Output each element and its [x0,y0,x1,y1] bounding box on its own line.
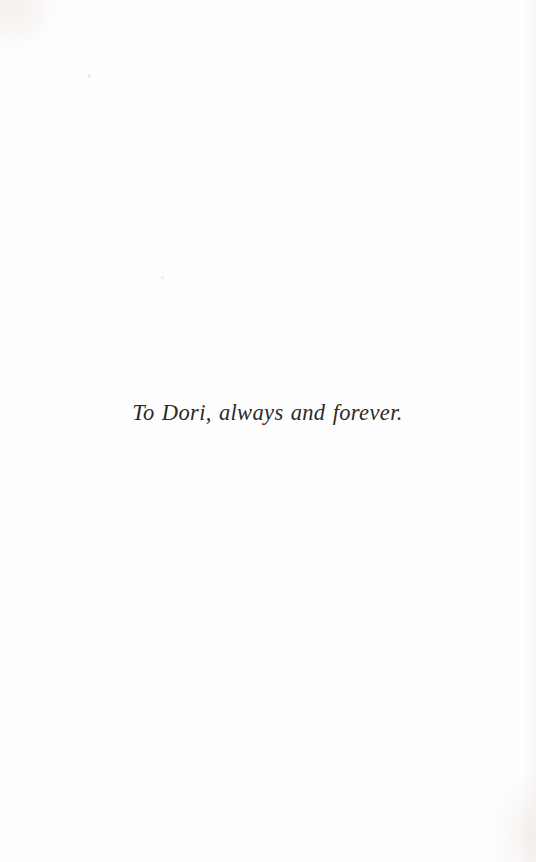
scan-speck-upper-left [88,74,91,78]
dedication-text: To Dori, always and forever. [132,398,402,428]
scan-speck-mid-left [161,276,164,279]
dedication-block: To Dori, always and forever. [0,398,536,428]
dedication-page: To Dori, always and forever. [0,0,536,862]
